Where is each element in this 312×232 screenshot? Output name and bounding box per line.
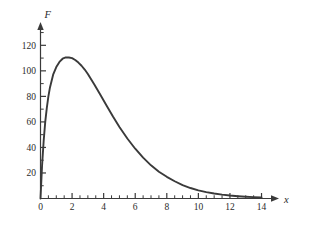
y-tick-label: 20 [27,168,37,178]
x-axis-name: x [283,194,289,205]
y-axis-arrowhead [37,22,43,30]
x-tick-label: 6 [133,202,138,212]
x-tick-label: 14 [257,202,267,212]
x-tick-label: 4 [101,202,106,212]
y-axis-name: F [44,9,52,20]
x-tick-label: 10 [194,202,204,212]
data-curve [41,57,262,198]
chart-plot-area: 20406080100120 02468101214 Fx [0,0,312,232]
curve-path [41,57,262,198]
x-tick-label: 0 [38,202,43,212]
axis-labels: Fx [44,9,290,205]
y-tick-label: 100 [22,66,37,76]
x-axis-arrowhead [271,195,279,201]
chart-figure: 20406080100120 02468101214 Fx [0,0,312,232]
x-tick-label: 12 [225,202,235,212]
y-tick-label: 60 [27,117,37,127]
y-tick-label: 40 [27,143,37,153]
y-tick-label: 120 [22,41,37,51]
y-tick-label: 80 [27,92,37,102]
x-tick-label: 2 [70,202,75,212]
x-tick-label: 8 [164,202,169,212]
